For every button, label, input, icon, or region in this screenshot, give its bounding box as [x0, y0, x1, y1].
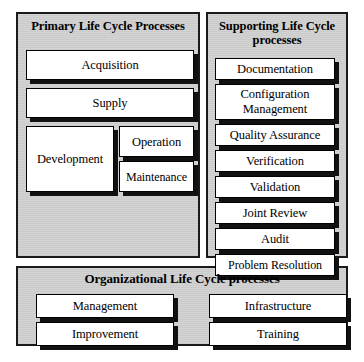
- process-label-verification: Verification: [246, 154, 304, 168]
- panel-supporting-title-line1: Supporting Life: [219, 19, 303, 33]
- process-box-supply[interactable]: Supply: [26, 88, 194, 118]
- process-label-documentation: Documentation: [237, 62, 313, 76]
- process-box-joint-review[interactable]: Joint Review: [215, 202, 335, 224]
- process-label-joint-review: Joint Review: [243, 206, 307, 220]
- process-box-training[interactable]: Training: [209, 322, 347, 346]
- process-label-management: Management: [73, 299, 137, 313]
- panel-primary-title: Primary Life Cycle Processes: [18, 14, 198, 33]
- process-label-improvement: Improvement: [72, 327, 138, 341]
- process-box-development[interactable]: Development: [26, 126, 114, 192]
- process-label-configuration-line1: Configuration: [241, 87, 310, 102]
- panel-primary-title-line1: Primary Life Cycle: [31, 19, 132, 33]
- panel-primary-title-line2: Processes: [135, 19, 185, 33]
- process-box-management[interactable]: Management: [36, 294, 174, 318]
- process-box-documentation[interactable]: Documentation: [215, 58, 335, 80]
- process-box-infrastructure[interactable]: Infrastructure: [209, 294, 347, 318]
- process-box-maintenance[interactable]: Maintenance: [119, 161, 194, 192]
- process-label-maintenance: Maintenance: [126, 170, 187, 184]
- panel-supporting-title: Supporting Life Cycle processes: [208, 14, 346, 47]
- process-label-configuration-line2: Management: [243, 102, 307, 117]
- process-label-supply: Supply: [93, 96, 128, 110]
- process-label-validation: Validation: [250, 180, 300, 194]
- process-label-audit: Audit: [261, 232, 289, 246]
- process-box-operation[interactable]: Operation: [119, 126, 194, 157]
- panel-supporting-life-cycle-processes: Supporting Life Cycle processes Document…: [206, 12, 348, 258]
- process-label-acquisition: Acquisition: [81, 58, 138, 72]
- process-label-development: Development: [37, 152, 103, 166]
- process-box-improvement[interactable]: Improvement: [36, 322, 174, 346]
- life-cycle-processes-diagram: Primary Life Cycle Processes Acquisition…: [0, 0, 364, 362]
- process-box-audit[interactable]: Audit: [215, 228, 335, 250]
- panel-organizational-life-cycle-processes: Organizational Life Cycle processes Mana…: [16, 266, 348, 346]
- panel-primary-life-cycle-processes: Primary Life Cycle Processes Acquisition…: [16, 12, 200, 258]
- process-label-operation: Operation: [132, 135, 181, 149]
- process-label-training: Training: [257, 327, 299, 341]
- process-box-verification[interactable]: Verification: [215, 150, 335, 172]
- process-box-validation[interactable]: Validation: [215, 176, 335, 198]
- process-label-infrastructure: Infrastructure: [245, 299, 312, 313]
- process-label-quality-assurance: Quality Assurance: [230, 128, 320, 142]
- process-box-acquisition[interactable]: Acquisition: [26, 50, 194, 80]
- process-box-configuration-management[interactable]: Configuration Management: [215, 84, 335, 120]
- panel-organizational-title: Organizational Life Cycle processes: [18, 268, 346, 286]
- process-box-quality-assurance[interactable]: Quality Assurance: [215, 124, 335, 146]
